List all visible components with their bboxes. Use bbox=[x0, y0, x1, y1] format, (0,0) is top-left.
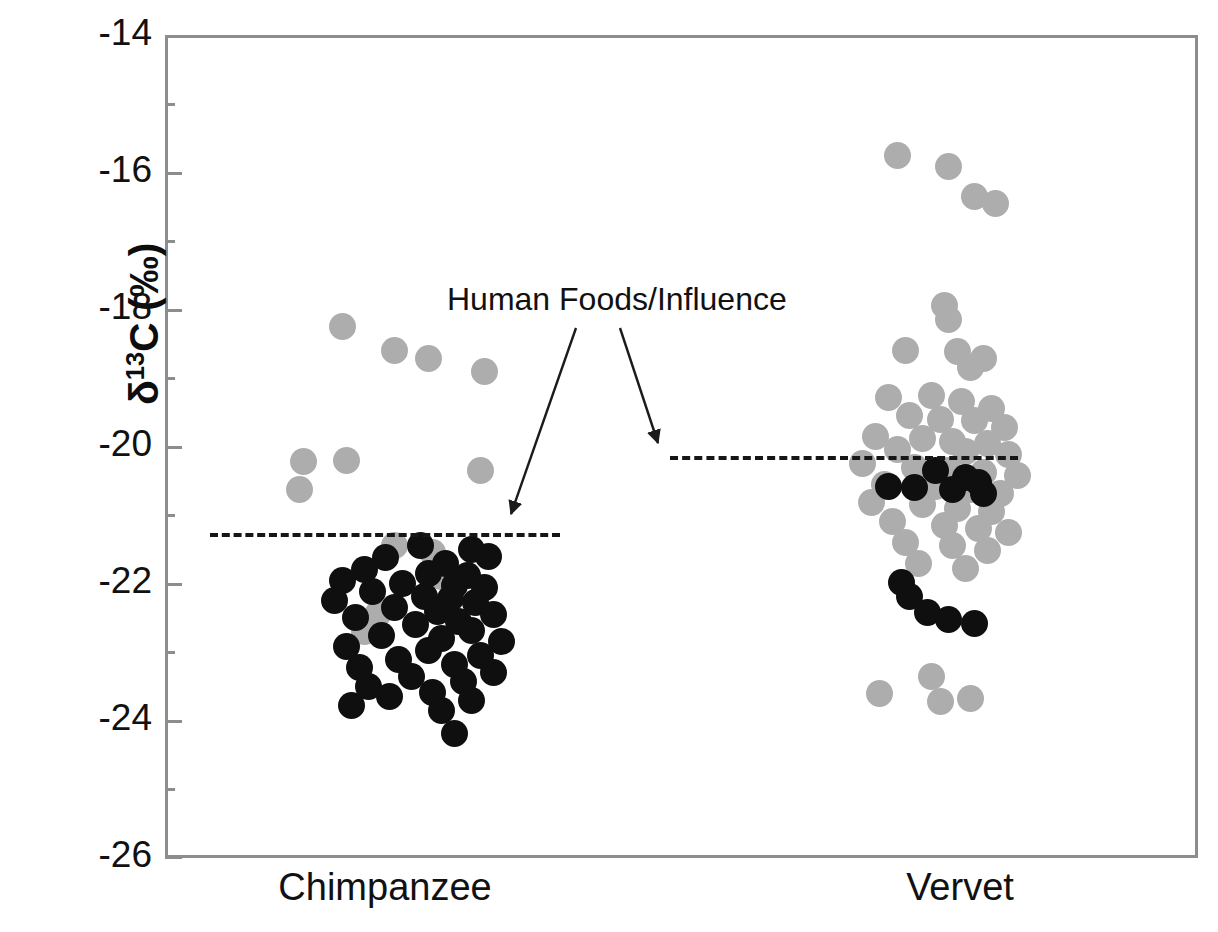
data-point-vervet-gray bbox=[918, 382, 945, 409]
data-point-vervet-gray bbox=[909, 425, 936, 452]
data-point-vervet-gray bbox=[935, 306, 962, 333]
data-point-vervet-gray bbox=[927, 688, 954, 715]
ytick-label: -24 bbox=[99, 699, 152, 736]
y-axis-ticks: -14 -16 -18 -20 -22 -24 -26 bbox=[0, 0, 152, 932]
ytick-minor bbox=[165, 788, 175, 791]
data-point-vervet-black bbox=[935, 606, 962, 633]
ytick-minor bbox=[165, 377, 175, 380]
ytick-label: -20 bbox=[99, 425, 152, 462]
data-point-chimpanzee-black bbox=[475, 543, 502, 570]
data-point-chimpanzee-gray bbox=[333, 447, 360, 474]
ytick-major bbox=[165, 856, 182, 859]
reference-line-vervet bbox=[670, 456, 1018, 460]
annotation-label: Human Foods/Influence bbox=[447, 281, 787, 318]
data-point-vervet-gray bbox=[982, 190, 1009, 217]
ytick-minor bbox=[165, 514, 175, 517]
ytick-label: -14 bbox=[99, 14, 152, 51]
ytick-label: -22 bbox=[99, 562, 152, 599]
data-point-chimpanzee-black bbox=[368, 622, 395, 649]
data-point-chimpanzee-gray bbox=[381, 337, 408, 364]
data-point-vervet-black bbox=[875, 473, 902, 500]
data-point-vervet-gray bbox=[957, 354, 984, 381]
ytick-minor bbox=[165, 651, 175, 654]
data-point-chimpanzee-black bbox=[338, 692, 365, 719]
chart-root: δ13C (‰) -14 -16 -18 -20 -22 -24 -26 Hum… bbox=[0, 0, 1218, 932]
data-point-vervet-black bbox=[939, 476, 966, 503]
ytick-minor bbox=[165, 240, 175, 243]
data-point-chimpanzee-black bbox=[458, 687, 485, 714]
data-point-chimpanzee-black bbox=[441, 720, 468, 747]
data-point-chimpanzee-black bbox=[458, 617, 485, 644]
ytick-major bbox=[165, 446, 182, 449]
ytick-label: -26 bbox=[99, 836, 152, 873]
data-point-vervet-black bbox=[970, 480, 997, 507]
data-point-chimpanzee-gray bbox=[467, 457, 494, 484]
xtick-label-chimpanzee: Chimpanzee bbox=[235, 866, 535, 909]
data-point-vervet-black bbox=[961, 610, 988, 637]
data-point-chimpanzee-gray bbox=[471, 358, 498, 385]
data-point-vervet-gray bbox=[892, 337, 919, 364]
data-point-vervet-gray bbox=[866, 680, 893, 707]
data-point-vervet-gray bbox=[884, 142, 911, 169]
data-point-vervet-gray bbox=[974, 537, 1001, 564]
ytick-label: -16 bbox=[99, 151, 152, 188]
data-point-chimpanzee-gray bbox=[286, 476, 313, 503]
data-point-vervet-gray bbox=[957, 685, 984, 712]
plot-area bbox=[165, 35, 1198, 858]
xtick-label-vervet: Vervet bbox=[810, 866, 1110, 909]
data-point-vervet-gray bbox=[918, 663, 945, 690]
data-point-vervet-gray bbox=[995, 519, 1022, 546]
ytick-major bbox=[165, 172, 182, 175]
ytick-major bbox=[165, 309, 182, 312]
reference-line-chimpanzee bbox=[210, 533, 560, 537]
data-point-vervet-black bbox=[901, 474, 928, 501]
ytick-major bbox=[165, 720, 182, 723]
ytick-major bbox=[165, 583, 182, 586]
data-point-chimpanzee-black bbox=[480, 659, 507, 686]
ytick-label: -18 bbox=[99, 288, 152, 325]
data-point-chimpanzee-gray bbox=[329, 313, 356, 340]
ytick-major bbox=[165, 35, 182, 38]
ytick-minor bbox=[165, 103, 175, 106]
